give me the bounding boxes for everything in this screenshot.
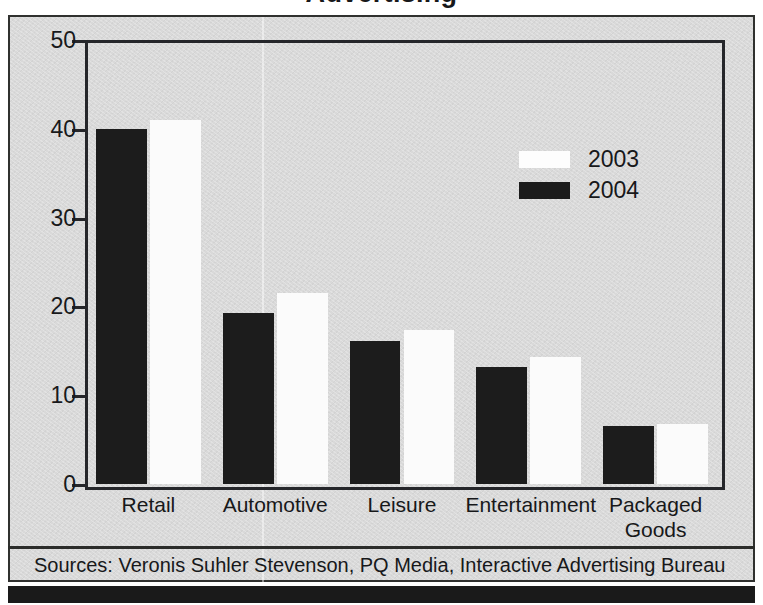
x-axis-label: Retail [85, 492, 212, 517]
x-axis-label: Leisure [339, 492, 466, 517]
plot-frame [85, 40, 725, 490]
chart-legend: 2003 2004 [519, 144, 639, 206]
legend-label-2004: 2004 [588, 177, 639, 204]
source-note: Sources: Veronis Suhler Stevenson, PQ Me… [34, 554, 725, 577]
y-axis-tick-label: 40 [50, 115, 76, 142]
y-axis-tick-label: 50 [50, 27, 76, 54]
chart-figure: Advertising 01020304050 RetailAutomotive… [0, 0, 763, 605]
chart-title: Advertising [0, 0, 763, 9]
bottom-scan-bar [8, 586, 755, 603]
x-axis-label-line: Entertainment [465, 492, 592, 517]
x-axis-label-line: Goods [592, 517, 719, 542]
x-axis-label-line: Retail [85, 492, 212, 517]
legend-swatch-icon-2004 [519, 182, 570, 199]
source-strip: Sources: Veronis Suhler Stevenson, PQ Me… [8, 546, 755, 582]
y-axis-tick-label: 30 [50, 204, 76, 231]
legend-label-2003: 2003 [588, 146, 639, 173]
y-axis-tick-label: 10 [50, 382, 76, 409]
y-axis-tick-label: 0 [63, 471, 76, 498]
x-axis-label-line: Automotive [212, 492, 339, 517]
x-axis-label: PackagedGoods [592, 492, 719, 542]
x-axis-label: Automotive [212, 492, 339, 517]
legend-swatch-icon-2003 [519, 151, 570, 168]
legend-item-2003: 2003 [519, 144, 639, 175]
x-axis-label-line: Packaged [592, 492, 719, 517]
x-axis-label-line: Leisure [339, 492, 466, 517]
x-axis-label: Entertainment [465, 492, 592, 517]
legend-item-2004: 2004 [519, 175, 639, 206]
chart-title-clipped: Advertising [0, 0, 763, 15]
y-axis-tick-label: 20 [50, 293, 76, 320]
